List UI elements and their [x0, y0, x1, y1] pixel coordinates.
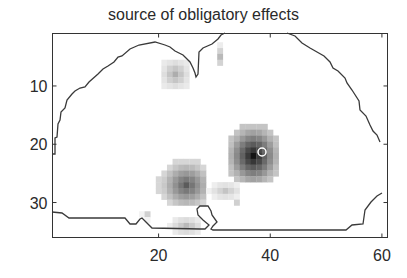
heatmap-cell	[206, 188, 212, 194]
heatmap-cell	[184, 200, 190, 206]
heatmap-cell	[234, 194, 240, 200]
heatmap-cell	[184, 83, 190, 89]
heatmap-cell	[267, 159, 273, 165]
heatmap-cell	[195, 194, 201, 200]
heatmap-cell	[228, 147, 234, 153]
heatmap-cell	[256, 170, 262, 176]
heatmap-cell	[189, 223, 195, 229]
heatmap-cell	[200, 200, 206, 206]
heatmap-cell	[262, 130, 268, 136]
heatmap-cell	[178, 182, 184, 188]
heatmap-cell	[273, 165, 279, 171]
heatmap-cell	[273, 153, 279, 159]
heatmap-cell	[195, 200, 201, 206]
heatmap-cell	[234, 200, 240, 206]
heatmap-cells	[139, 42, 279, 235]
heatmap-cell	[161, 170, 167, 176]
heatmap-cell	[184, 77, 190, 83]
heatmap-cell	[189, 194, 195, 200]
heatmap-cell	[195, 229, 201, 235]
heatmap-cell	[212, 194, 218, 200]
heatmap-cell	[178, 176, 184, 182]
heatmap-cell	[189, 188, 195, 194]
heatmap-cell	[262, 165, 268, 171]
heatmap-cell	[273, 147, 279, 153]
heatmap-cell	[267, 176, 273, 182]
heatmap-cell	[240, 136, 246, 142]
heatmap-cell	[262, 141, 268, 147]
heatmap-cell	[267, 141, 273, 147]
heatmap-cell	[234, 188, 240, 194]
heatmap-cell	[200, 176, 206, 182]
heatmap-cell	[245, 170, 251, 176]
tick-label: 10	[30, 78, 48, 95]
heatmap-cell	[262, 159, 268, 165]
heatmap-cell	[167, 188, 173, 194]
heatmap-cell	[245, 159, 251, 165]
tick-label: 20	[150, 247, 168, 264]
heatmap-cell	[234, 130, 240, 136]
heatmap-cell	[256, 159, 262, 165]
heatmap-cell	[267, 147, 273, 153]
heatmap-cell	[173, 176, 179, 182]
heatmap-cell	[256, 130, 262, 136]
heatmap-cell	[267, 165, 273, 171]
heatmap-cell	[251, 136, 257, 142]
heatmap-cell	[161, 182, 167, 188]
heatmap-cell	[189, 170, 195, 176]
heatmap-cell	[161, 176, 167, 182]
heatmap-cell	[167, 182, 173, 188]
heatmap-cell	[184, 229, 190, 235]
heatmap-cell	[256, 141, 262, 147]
heatmap-cell	[240, 153, 246, 159]
heatmap-cell	[184, 194, 190, 200]
heatmap-cell	[178, 60, 184, 66]
heatmap-cell	[262, 136, 268, 142]
heatmap-cell	[184, 170, 190, 176]
heatmap-cell	[217, 194, 223, 200]
heatmap-cell	[240, 170, 246, 176]
heatmap-cell	[273, 141, 279, 147]
heatmap-cell	[173, 194, 179, 200]
heatmap-cell	[173, 182, 179, 188]
heatmap-cell	[228, 170, 234, 176]
heatmap-cell	[251, 159, 257, 165]
heatmap-cell	[217, 54, 223, 60]
heatmap-cell	[240, 159, 246, 165]
heatmap-cell	[173, 217, 179, 223]
heatmap-cell	[189, 217, 195, 223]
tick-label: 20	[30, 136, 48, 153]
heatmap-cell	[212, 188, 218, 194]
heatmap-cell	[173, 188, 179, 194]
heatmap-cell	[273, 159, 279, 165]
heatmap-cell	[262, 124, 268, 130]
heatmap-cell	[267, 153, 273, 159]
heatmap-cell	[184, 176, 190, 182]
heatmap-cell	[228, 182, 234, 188]
heatmap-cell	[240, 130, 246, 136]
heatmap-cell	[167, 60, 173, 66]
heatmap-cell	[234, 165, 240, 171]
heatmap-cell	[234, 170, 240, 176]
heatmap-cell	[167, 176, 173, 182]
heatmap-cell	[161, 60, 167, 66]
heatmap-cell	[178, 188, 184, 194]
heatmap-cell	[228, 136, 234, 142]
heatmap-cell	[167, 170, 173, 176]
heatmap-cell	[223, 188, 229, 194]
heatmap-cell	[173, 229, 179, 235]
heatmap-cell	[178, 159, 184, 165]
heatmap-cell	[256, 165, 262, 171]
tick-label: 60	[373, 247, 391, 264]
heatmap-cell	[251, 153, 257, 159]
heatmap-cell	[228, 141, 234, 147]
heatmap-cell	[200, 182, 206, 188]
heatmap-cell	[217, 182, 223, 188]
heatmap-cell	[251, 124, 257, 130]
heatmap-cell	[184, 182, 190, 188]
heatmap-cell	[217, 60, 223, 66]
heatmap-cell	[195, 217, 201, 223]
heatmap-cell	[200, 188, 206, 194]
brain-outline-contour	[52, 33, 382, 230]
heatmap-cell	[273, 170, 279, 176]
